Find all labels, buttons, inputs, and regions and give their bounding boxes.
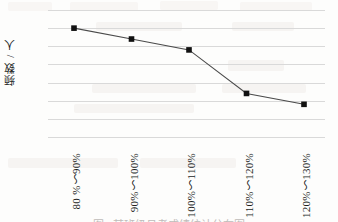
data-point-marker	[244, 91, 250, 97]
x-axis-tick-label: 110%～120%	[241, 153, 257, 218]
scan-artifact	[160, 1, 218, 10]
y-axis-title: 频数 / 人	[2, 38, 18, 86]
x-axis-tick-label: 120%～130%	[298, 153, 314, 218]
data-point-marker	[71, 25, 77, 31]
scan-artifact	[8, 2, 52, 11]
data-series-line	[48, 10, 325, 137]
series-polyline	[74, 28, 304, 104]
x-axis-tick-label: 80 %～90%	[68, 153, 84, 209]
x-axis-tick-label: 100%～110%	[183, 153, 199, 218]
data-point-marker	[301, 102, 307, 108]
scan-artifact	[8, 158, 118, 168]
gridline	[48, 137, 325, 138]
data-point-marker	[129, 36, 135, 42]
data-point-marker	[186, 47, 192, 53]
x-axis-tick-label: 90%～100%	[126, 153, 142, 212]
figure-caption: 图1 某班级月考成绩统计分布图	[0, 216, 338, 222]
plot-area: 35 30 25 20 15 10 5 0 80 %～90% 90%～100% …	[48, 10, 325, 137]
chart-figure: 频数 / 人 35 30 25 20 15 10 5 0 80 %～90% 9	[0, 0, 338, 222]
